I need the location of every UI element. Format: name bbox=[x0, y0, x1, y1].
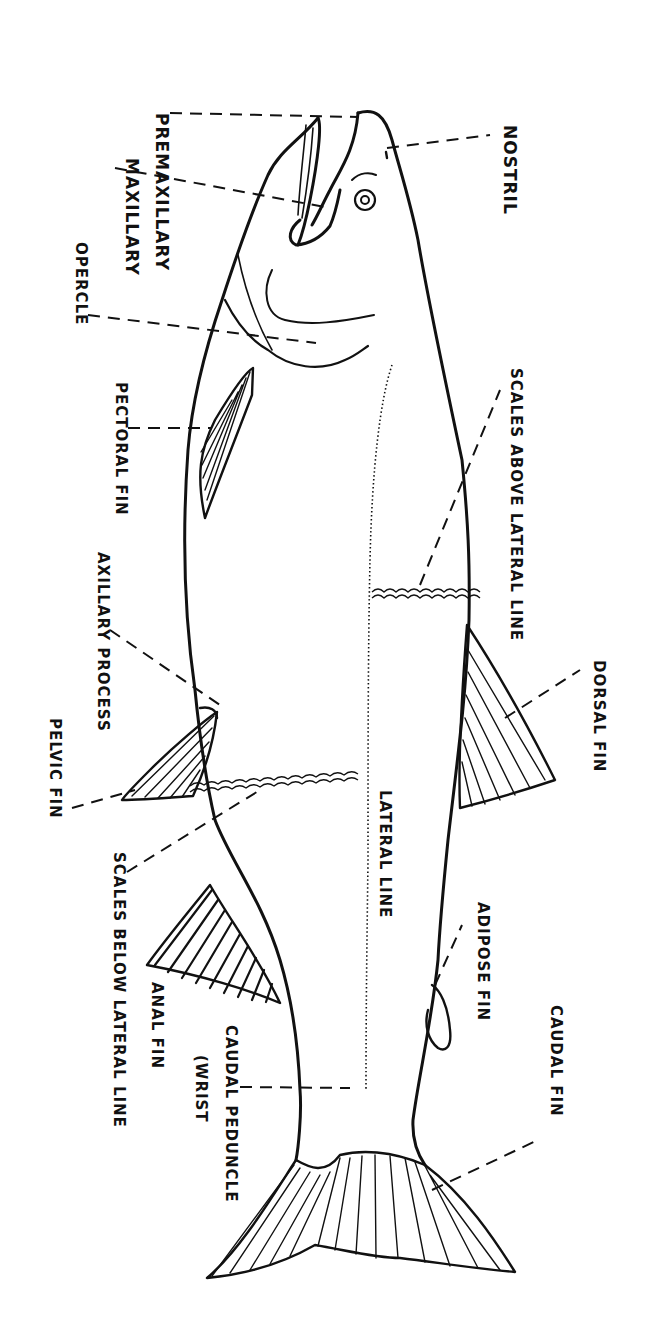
eye-inner bbox=[361, 196, 369, 204]
label-premaxillary: PREMAXILLARY bbox=[153, 113, 170, 271]
label-maxillary: MAXILLARY bbox=[123, 158, 140, 276]
leader-nostril bbox=[387, 135, 490, 148]
preopercle-line bbox=[266, 270, 374, 323]
leader-scales-above bbox=[420, 390, 500, 585]
eye-outer bbox=[355, 190, 375, 210]
leader-axillary bbox=[110, 630, 220, 705]
label-caudal-peduncle: CAUDAL PEDUNCLE bbox=[223, 1025, 238, 1202]
label-caudal-fin: CAUDAL FIN bbox=[548, 1005, 563, 1117]
lateral-line-dots bbox=[366, 365, 392, 1090]
label-nostril: NOSTRIL bbox=[501, 125, 518, 215]
scales-below-row bbox=[190, 772, 358, 792]
opercle-line bbox=[225, 300, 368, 367]
label-scales-above-lateral-line: SCALES ABOVE LATERAL LINE bbox=[508, 368, 523, 641]
label-axillary-process: AXILLARY PROCESS bbox=[95, 552, 110, 732]
leader-maxillary bbox=[115, 168, 330, 208]
fish-dorsal-outline bbox=[358, 111, 469, 1165]
nostril-mark bbox=[386, 152, 387, 158]
leader-premaxillary bbox=[170, 113, 358, 117]
leader-caudal-fin bbox=[432, 1140, 538, 1190]
label-adipose-fin: ADIPOSE FIN bbox=[475, 902, 490, 1021]
label-anal-fin: ANAL FIN bbox=[149, 982, 164, 1069]
label-pelvic-fin: PELVIC FIN bbox=[47, 718, 62, 819]
label-lateral-line: LATERAL LINE bbox=[377, 790, 392, 918]
label-opercle: OPERCLE bbox=[73, 242, 88, 325]
label-dorsal-fin: DORSAL FIN bbox=[591, 660, 606, 772]
maxillary-bone bbox=[298, 125, 313, 218]
label-wrist: (WRIST bbox=[193, 1055, 208, 1123]
anal-fin bbox=[147, 885, 280, 1003]
leader-dorsal bbox=[505, 670, 580, 718]
scales-above-row bbox=[372, 589, 480, 598]
pectoral-fin bbox=[200, 368, 253, 518]
eye-brow bbox=[352, 173, 376, 180]
label-scales-below-lateral-line: SCALES BELOW LATERAL LINE bbox=[111, 852, 126, 1128]
leader-peduncle bbox=[240, 1087, 350, 1088]
label-pectoral-fin: PECTORAL FIN bbox=[113, 382, 128, 516]
leader-scales-below bbox=[127, 790, 260, 872]
fish-ventral-outline bbox=[185, 118, 318, 1160]
